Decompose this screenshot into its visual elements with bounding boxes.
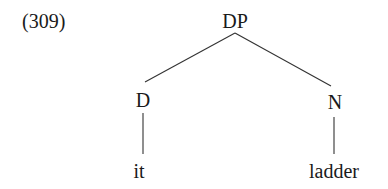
branch-dp-d — [145, 33, 235, 82]
terminal-it: it — [133, 161, 144, 181]
node-dp: DP — [222, 11, 248, 31]
branch-dp-n — [235, 33, 331, 86]
node-d: D — [136, 90, 150, 110]
terminal-ladder: ladder — [309, 161, 359, 181]
node-n: N — [328, 92, 342, 112]
